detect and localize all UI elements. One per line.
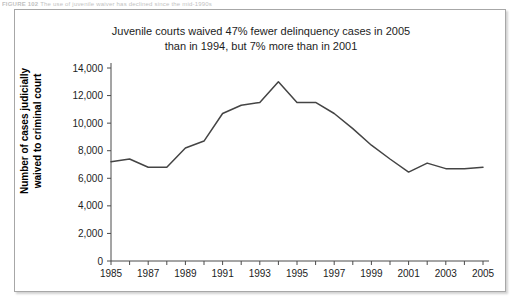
figure-header-label: FIGURE 102 <box>2 1 38 7</box>
x-tick-label: 2005 <box>472 268 495 279</box>
y-tick-label: 8,000 <box>78 145 103 156</box>
line-chart-svg: 02,0004,0006,0008,00010,00012,00014,000 … <box>15 10 507 293</box>
plot-area: Number of cases judicially waived to cri… <box>15 10 507 293</box>
x-tick-label: 2001 <box>397 268 420 279</box>
x-tick-label: 1985 <box>100 268 123 279</box>
figure-header: FIGURE 102 The use of juvenile waiver ha… <box>0 0 519 9</box>
x-tick-label: 1989 <box>174 268 197 279</box>
y-axis-ticks: 02,0004,0006,0008,00010,00012,00014,000 <box>72 63 111 267</box>
data-series-line <box>111 82 483 172</box>
y-tick-label: 0 <box>97 256 103 267</box>
y-tick-label: 4,000 <box>78 200 103 211</box>
x-tick-label: 1997 <box>323 268 346 279</box>
x-tick-label: 1993 <box>249 268 272 279</box>
chart-frame: Juvenile courts waived 47% fewer delinqu… <box>14 9 506 292</box>
y-tick-label: 6,000 <box>78 173 103 184</box>
y-tick-label: 14,000 <box>72 63 103 74</box>
figure-header-text: The use of juvenile waiver has declined … <box>40 1 212 7</box>
y-tick-label: 2,000 <box>78 228 103 239</box>
x-tick-label: 1995 <box>286 268 309 279</box>
x-tick-label: 1987 <box>137 268 160 279</box>
x-tick-label: 1991 <box>211 268 234 279</box>
y-tick-label: 10,000 <box>72 118 103 129</box>
y-tick-label: 12,000 <box>72 90 103 101</box>
x-axis-ticks: 1985198719891991199319951997199920012003… <box>100 261 495 279</box>
x-tick-label: 2003 <box>435 268 458 279</box>
x-tick-label: 1999 <box>360 268 383 279</box>
